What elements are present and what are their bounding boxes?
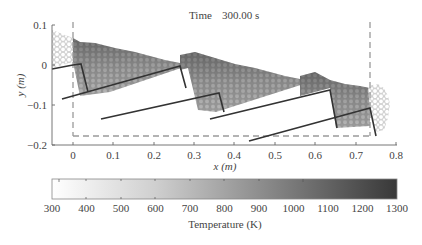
- chart-figure: Time 300.00 s: [0, 0, 422, 245]
- cbar-tick-1100: 1100: [317, 202, 339, 214]
- colorbar-tick-labels: 300 400 500 600 700 800 900 1000 1100 12…: [44, 202, 409, 214]
- cbar-tick-700: 700: [182, 202, 199, 214]
- cbar-tick-1200: 1200: [352, 202, 375, 214]
- y-tick-labels: 0.1 0 −0.1 −0.2: [27, 19, 47, 151]
- x-tick-0.6: 0.6: [308, 149, 322, 161]
- x-tick-0.7: 0.7: [349, 149, 363, 161]
- cbar-tick-300: 300: [44, 202, 61, 214]
- time-title: Time 300.00 s: [189, 9, 259, 21]
- colorbar: 300 400 500 600 700 800 900 1000 1100 12…: [44, 179, 409, 231]
- y-tick-0.1: 0.1: [33, 19, 47, 31]
- x-tick-0.2: 0.2: [147, 149, 161, 161]
- x-tick-0.8: 0.8: [389, 149, 403, 161]
- cbar-tick-1300: 1300: [386, 202, 409, 214]
- x-tick-0: 0: [70, 149, 76, 161]
- y-tick-neg0.1: −0.1: [27, 99, 47, 111]
- x-tick-0.1: 0.1: [106, 149, 120, 161]
- cbar-tick-1000: 1000: [283, 202, 306, 214]
- colorbar-gradient: [52, 179, 397, 199]
- x-axis-label: x (m): [213, 160, 237, 173]
- cbar-tick-500: 500: [113, 202, 130, 214]
- cbar-tick-900: 900: [251, 202, 268, 214]
- cbar-tick-800: 800: [216, 202, 233, 214]
- x-tick-0.5: 0.5: [268, 149, 282, 161]
- colorbar-label: Temperature (K): [188, 218, 262, 231]
- x-tick-labels: 0 0.1 0.2 0.3 0.4 0.5 0.6 0.7 0.8: [70, 149, 403, 161]
- y-tick-0: 0: [42, 59, 48, 71]
- y-tick-neg0.2: −0.2: [27, 139, 47, 151]
- cbar-tick-600: 600: [147, 202, 164, 214]
- cbar-tick-400: 400: [78, 202, 95, 214]
- y-axis-label: y (m): [14, 73, 27, 97]
- x-tick-0.3: 0.3: [187, 149, 201, 161]
- time-value: 300.00 s: [222, 9, 259, 21]
- time-label: Time: [189, 9, 212, 21]
